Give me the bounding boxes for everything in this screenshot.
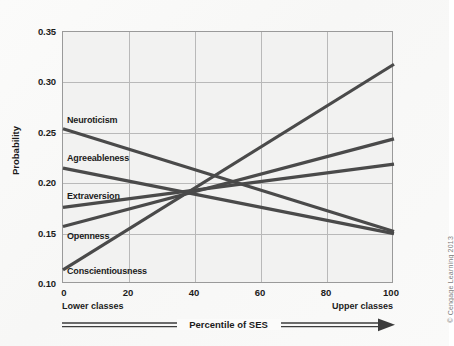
x-tick-80: 80 bbox=[306, 287, 346, 298]
x-axis-high-annotation: Upper classes bbox=[332, 301, 393, 311]
series-label-neuroticism: Neuroticism bbox=[67, 115, 117, 125]
line-openness bbox=[63, 139, 394, 227]
x-axis-arrow-bar: Percentile of SES bbox=[62, 317, 395, 333]
x-tick-40: 40 bbox=[174, 287, 214, 298]
y-axis-label: Probability bbox=[10, 116, 21, 186]
series-label-agreeableness: Agreeableness bbox=[67, 153, 129, 163]
x-tick-60: 60 bbox=[240, 287, 280, 298]
line-neuroticism bbox=[63, 129, 394, 232]
y-tick-4: 0.15 bbox=[2, 228, 56, 239]
y-tick-0: 0.35 bbox=[2, 26, 56, 37]
plot-area: Neuroticism Agreeableness Extraversion O… bbox=[62, 31, 393, 283]
series-label-extraversion: Extraversion bbox=[67, 191, 120, 201]
x-axis-low-annotation: Lower classes bbox=[62, 301, 124, 311]
copyright-credit: © Cengage Learning 2013 bbox=[447, 236, 454, 323]
x-tick-20: 20 bbox=[108, 287, 148, 298]
series-label-conscientiousness: Conscientiousness bbox=[67, 266, 147, 276]
y-tick-1: 0.30 bbox=[2, 76, 56, 87]
x-tick-0: 0 bbox=[44, 287, 84, 298]
x-tick-100: 100 bbox=[371, 287, 411, 298]
series-label-openness: Openness bbox=[67, 231, 109, 241]
line-conscientiousness bbox=[63, 64, 394, 270]
x-axis-label: Percentile of SES bbox=[177, 319, 281, 330]
